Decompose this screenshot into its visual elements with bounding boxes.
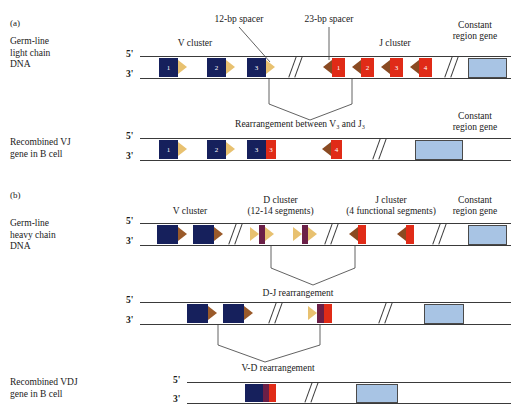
v-segment-box: 2 <box>207 58 226 77</box>
panel-b-letter: (b) <box>10 190 21 200</box>
five-prime-a: 5' <box>126 49 133 59</box>
v-segment-box: 2 <box>207 140 226 159</box>
label-23bp-spacer: 23-bp spacer <box>287 14 371 25</box>
label-12bp-spacer: 12-bp spacer <box>197 14 281 25</box>
j-segment-box-joined <box>324 304 332 323</box>
spacer-23bp-icon <box>178 227 187 241</box>
spacer-12bp-icon <box>293 227 302 241</box>
recombined-vdj-row-label: Recombined VDJ gene in B cell <box>10 377 125 400</box>
dna-strand-top-vdj <box>187 382 511 383</box>
v-segment-box: 1 <box>159 140 178 159</box>
label-v-cluster-b: V cluster <box>150 206 230 217</box>
v-segment-box-joined: 3 <box>247 140 266 159</box>
strand-break-mark <box>372 137 388 161</box>
spacer-12bp-icon <box>178 142 187 156</box>
v-segment-box <box>223 304 244 323</box>
j-segment-box-joined: 3 <box>266 140 276 159</box>
strand-break-mark <box>228 222 244 246</box>
label-j-cluster-a: J cluster <box>355 38 435 49</box>
spacer-12bp-icon <box>226 60 235 74</box>
j-segment-box <box>358 225 366 244</box>
strand-break-mark <box>432 222 448 246</box>
spacer-23bp-icon <box>214 227 223 241</box>
three-prime-a: 3' <box>126 69 133 79</box>
panel-a-letter: (a) <box>10 18 20 28</box>
spacer-12bp-icon <box>308 306 317 320</box>
v-segment-box <box>157 225 178 244</box>
spacer-23bp-icon <box>208 306 217 320</box>
five-prime-vdj: 5' <box>173 375 180 385</box>
j-segment-box-fused <box>269 384 276 402</box>
five-prime-dj: 5' <box>126 295 133 305</box>
dna-strand-bottom-vdj <box>187 403 511 404</box>
dna-strand-bottom-dj <box>140 324 511 325</box>
label-constant-region-vj: Constant region gene <box>436 111 514 133</box>
three-prime-dj: 3' <box>126 315 133 325</box>
spacer-23bp-icon <box>323 60 332 74</box>
constant-region-box <box>356 384 398 403</box>
j-segment-box: 2 <box>361 58 374 77</box>
j-segment-box <box>406 225 414 244</box>
v-segment-box <box>187 304 208 323</box>
d-segment-box-joined <box>317 304 324 323</box>
label-constant-region-a: Constant region gene <box>436 20 514 42</box>
constant-region-box <box>468 58 507 78</box>
v-segment-box <box>193 225 214 244</box>
vdj-recombination-figure: (a) Germ-line light chain DNA V cluster … <box>0 0 517 414</box>
recombined-vj-row-label: Recombined VJ gene in B cell <box>10 137 120 160</box>
v-segment-box: 3 <box>247 58 266 77</box>
spacer-23bp-icon <box>410 60 419 74</box>
spacer-23bp-icon <box>244 306 253 320</box>
j-segment-box: 4 <box>331 140 342 159</box>
spacer-12bp-icon <box>250 227 259 241</box>
dna-strand-bottom-vj <box>140 160 511 161</box>
j-segment-box: 1 <box>332 58 345 77</box>
strand-break-mark <box>324 222 340 246</box>
spacer-23bp-icon <box>352 60 361 74</box>
v-segment-box-fused <box>245 384 263 402</box>
constant-region-box <box>415 140 463 160</box>
label-d-cluster-b: D cluster (12-14 segments) <box>228 195 333 217</box>
strand-break-mark <box>304 381 320 404</box>
label-v-cluster-a: V cluster <box>150 38 240 49</box>
strand-break-mark <box>444 55 460 79</box>
label-vd-rearrangement: V-D rearrangement <box>208 363 348 374</box>
spacer-23bp-icon <box>397 227 406 241</box>
panel-a-row-label: Germ-line light chain DNA <box>10 36 110 71</box>
label-constant-region-b: Constant region gene <box>436 195 514 217</box>
j-segment-box: 3 <box>390 58 403 77</box>
spacer-12bp-icon <box>178 60 187 74</box>
label-dj-rearrangement: D-J rearrangement <box>228 288 368 299</box>
strand-break-mark <box>268 301 284 325</box>
three-prime-vj: 3' <box>126 151 133 161</box>
v-segment-box: 1 <box>159 58 178 77</box>
panel-b-row-label: Germ-line heavy chain DNA <box>10 218 110 253</box>
j-segment-box: 4 <box>419 58 432 77</box>
strand-break-mark <box>378 301 394 325</box>
label-j-cluster-b: J cluster (4 functional segments) <box>330 195 452 217</box>
constant-region-box <box>424 304 464 324</box>
five-prime-b: 5' <box>126 216 133 226</box>
spacer-23bp-icon <box>322 142 331 156</box>
strand-break-mark <box>288 55 304 79</box>
three-prime-vdj: 3' <box>173 394 180 404</box>
label-vj-rearrangement: Rearrangement between V₃ and J₃ <box>200 119 400 130</box>
constant-region-box <box>468 225 507 245</box>
spacer-12bp-icon <box>226 142 235 156</box>
spacer-23bp-icon <box>349 227 358 241</box>
three-prime-b: 3' <box>126 236 133 246</box>
spacer-12bp-icon <box>308 227 317 241</box>
spacer-12bp-icon <box>266 60 275 74</box>
five-prime-vj: 5' <box>126 131 133 141</box>
spacer-12bp-icon <box>265 227 274 241</box>
spacer-23bp-icon <box>381 60 390 74</box>
